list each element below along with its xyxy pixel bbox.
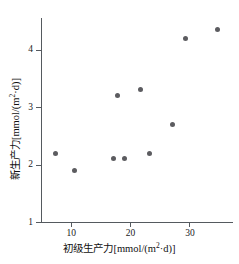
data-point [183, 36, 188, 41]
data-point [53, 151, 58, 156]
x-tick-label: 10 [66, 229, 76, 239]
y-tick-label: 2 [28, 160, 33, 170]
y-tick-1: 1 [36, 222, 41, 223]
axis-title-unit-exponent: 2 [8, 94, 17, 98]
axis-title-unit-open: [mmol/(m [10, 97, 21, 140]
x-tick-label: 30 [185, 229, 195, 239]
axis-title-unit-open: [mmol/(m [113, 243, 156, 254]
axis-title-unit-close: ·d)] [10, 78, 21, 94]
axis-title-name: 新生产力 [10, 140, 21, 180]
scatter-chart-figure: 1234 102030 新生产力[mmol/(m2·d)] 初级生产力[mmol… [0, 0, 239, 264]
x-axis-title: 初级生产力[mmol/(m2·d)] [0, 243, 239, 256]
y-tick-label: 4 [28, 45, 33, 55]
y-axis-title: 新生产力[mmol/(m2·d)] [10, 27, 28, 231]
data-point [147, 151, 152, 156]
axis-title-name: 初级生产力 [63, 243, 113, 254]
x-tick-10: 10 [71, 222, 72, 227]
y-tick-label: 3 [28, 103, 33, 113]
y-tick-label: 1 [28, 218, 33, 228]
axis-title-unit-close: ·d)] [160, 243, 176, 254]
plot-area [41, 18, 231, 222]
x-tick-30: 30 [189, 222, 190, 227]
data-point [170, 122, 175, 127]
x-tick-label: 20 [126, 229, 136, 239]
x-tick-20: 20 [130, 222, 131, 227]
data-point [72, 168, 77, 173]
